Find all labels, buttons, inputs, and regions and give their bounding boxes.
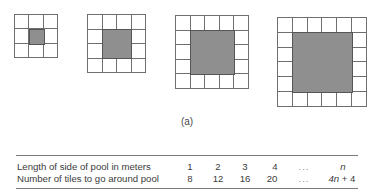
tile — [44, 15, 58, 29]
tile — [234, 60, 249, 75]
tile — [88, 59, 103, 74]
tile — [103, 15, 118, 30]
tile — [191, 16, 206, 31]
tile — [352, 18, 367, 33]
table-top-rule — [16, 155, 358, 156]
row-label-side-length: Length of side of pool in meters — [17, 161, 151, 172]
cell-tiles-3: 16 — [230, 173, 260, 184]
cell-tiles-ellipsis: ... — [289, 173, 319, 184]
tile — [176, 31, 191, 46]
cell-side-2: 2 — [203, 161, 233, 172]
tile — [176, 45, 191, 60]
tile — [44, 29, 58, 43]
pool-3 — [190, 30, 235, 75]
tile — [308, 92, 323, 107]
tile — [278, 92, 293, 107]
tile — [278, 18, 293, 33]
tile — [44, 44, 58, 58]
tile — [352, 77, 367, 92]
row-label-tile-count: Number of tiles to go around pool — [17, 173, 159, 184]
tile — [278, 48, 293, 63]
cell-tiles-2: 12 — [203, 173, 233, 184]
tile — [220, 16, 235, 31]
tile — [278, 33, 293, 48]
tile — [234, 74, 249, 89]
cell-side-4: 4 — [260, 161, 290, 172]
figure-caption: (a) — [176, 116, 198, 127]
pool-2 — [102, 29, 133, 60]
cell-tiles-4: 20 — [257, 173, 287, 184]
tile — [29, 15, 43, 29]
tile — [278, 62, 293, 77]
tile — [205, 74, 220, 89]
tile — [337, 92, 352, 107]
tile — [352, 62, 367, 77]
tile — [176, 60, 191, 75]
tile — [322, 18, 337, 33]
tile — [132, 59, 147, 74]
tile — [322, 92, 337, 107]
table-bottom-rule — [16, 188, 358, 189]
cell-tiles-formula: 4n + 4 — [322, 173, 362, 184]
tile — [132, 15, 147, 30]
tile — [132, 44, 147, 59]
tile — [352, 92, 367, 107]
tile — [176, 16, 191, 31]
tile — [117, 59, 132, 74]
tile — [176, 74, 191, 89]
tile — [103, 59, 118, 74]
tile — [234, 45, 249, 60]
pool-1 — [29, 29, 45, 45]
tile — [352, 33, 367, 48]
cell-side-1: 1 — [175, 161, 205, 172]
tile — [15, 29, 29, 43]
tile — [15, 15, 29, 29]
tile — [88, 30, 103, 45]
tile — [308, 18, 323, 33]
tile — [132, 30, 147, 45]
tile — [337, 18, 352, 33]
cell-tiles-1: 8 — [175, 173, 205, 184]
tile — [29, 44, 43, 58]
tile — [352, 48, 367, 63]
formula-4n: 4n — [329, 173, 340, 184]
tile — [293, 18, 308, 33]
tile — [234, 16, 249, 31]
tile — [234, 31, 249, 46]
tile — [117, 15, 132, 30]
tile — [88, 44, 103, 59]
tile — [88, 15, 103, 30]
tile — [205, 16, 220, 31]
tile — [278, 77, 293, 92]
tile — [15, 44, 29, 58]
cell-side-ellipsis: ... — [289, 161, 319, 172]
pool-4 — [292, 32, 353, 93]
tile — [191, 74, 206, 89]
cell-side-3: 3 — [230, 161, 260, 172]
tile — [293, 92, 308, 107]
cell-side-n: n — [328, 161, 358, 172]
tile — [220, 74, 235, 89]
